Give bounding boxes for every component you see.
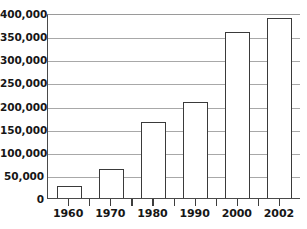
y-tick-label: 350,000 xyxy=(0,32,44,43)
x-tick-mark xyxy=(89,199,90,206)
x-tick-mark xyxy=(195,199,196,206)
x-tick-label: 1980 xyxy=(137,207,167,220)
bars-group xyxy=(48,15,300,198)
bar xyxy=(225,32,250,199)
bar-chart: 050,000100,000150,000200,000250,000300,0… xyxy=(0,0,307,229)
bar xyxy=(267,18,292,198)
y-tick-label: 100,000 xyxy=(0,147,44,158)
y-tick-label: 400,000 xyxy=(0,9,44,20)
x-axis: 196019701980199020002002 xyxy=(47,207,300,227)
bar xyxy=(141,122,166,198)
x-tick-mark xyxy=(131,199,132,206)
bar xyxy=(57,186,82,198)
x-tick-label: 2000 xyxy=(222,207,252,220)
plot-area xyxy=(47,14,300,199)
x-tick-label: 2002 xyxy=(264,207,294,220)
bar xyxy=(99,169,124,198)
x-tick-mark xyxy=(216,199,217,206)
y-tick-label: 50,000 xyxy=(0,170,44,181)
y-tick-label: 300,000 xyxy=(0,55,44,66)
y-tick-label: 200,000 xyxy=(0,101,44,112)
x-tick-mark xyxy=(174,199,175,206)
bar xyxy=(183,102,208,198)
x-tick-label: 1960 xyxy=(53,207,83,220)
y-tick-label: 250,000 xyxy=(0,78,44,89)
x-tick-mark xyxy=(237,199,238,206)
y-axis: 050,000100,000150,000200,000250,000300,0… xyxy=(0,0,44,199)
x-tick-mark xyxy=(68,199,69,206)
x-tick-mark xyxy=(152,199,153,206)
y-tick-label: 0 xyxy=(0,194,44,205)
y-tick-label: 150,000 xyxy=(0,124,44,135)
x-tick-mark xyxy=(258,199,259,206)
x-tick-label: 1990 xyxy=(179,207,209,220)
x-tick-mark xyxy=(279,199,280,206)
x-tick-label: 1970 xyxy=(95,207,125,220)
x-axis-ticks xyxy=(47,199,300,206)
x-tick-mark xyxy=(110,199,111,206)
